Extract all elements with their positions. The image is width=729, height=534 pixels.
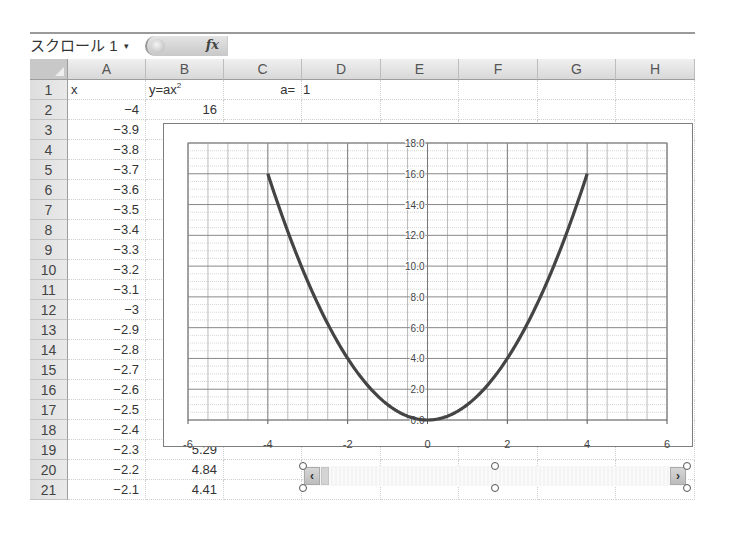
row-header[interactable]: 18 — [30, 420, 68, 440]
cell-a6[interactable]: −3.6 — [68, 180, 146, 200]
cell-c20[interactable] — [224, 460, 302, 480]
cell-a19[interactable]: −2.3 — [68, 440, 146, 460]
cell-e2[interactable] — [381, 100, 459, 120]
cell-a17[interactable]: −2.5 — [68, 400, 146, 420]
cell-b20[interactable]: 4.84 — [146, 460, 224, 480]
row-header[interactable]: 20 — [30, 460, 68, 480]
cell-a4[interactable]: −3.8 — [68, 140, 146, 160]
cell-a21[interactable]: −2.1 — [68, 480, 146, 500]
cell-a2[interactable]: −4 — [68, 100, 146, 120]
cell-b1[interactable]: y=ax2 — [146, 80, 224, 100]
cell-c1[interactable]: a= — [224, 80, 302, 100]
cell-a14[interactable]: −2.8 — [68, 340, 146, 360]
y-tick-label: 6.0 — [411, 323, 425, 334]
cell-d1[interactable]: 1 — [302, 80, 381, 100]
cell-value: 16 — [203, 102, 217, 117]
cell-value: −3.8 — [113, 142, 139, 157]
cell-value: −2.3 — [113, 442, 139, 457]
cell-a10[interactable]: −3.2 — [68, 260, 146, 280]
x-tick-label: -4 — [263, 438, 273, 448]
cell-a8[interactable]: −3.4 — [68, 220, 146, 240]
resize-handle-bottom-right[interactable] — [683, 484, 691, 492]
row-header[interactable]: 3 — [30, 120, 68, 140]
resize-handle-bottom-middle[interactable] — [491, 484, 499, 492]
cell-c2[interactable] — [224, 100, 302, 120]
superscript-exponent: 2 — [177, 81, 181, 90]
select-all-button[interactable] — [30, 59, 68, 80]
cell-a1[interactable]: x — [68, 80, 146, 100]
chevron-down-icon[interactable]: ▾ — [124, 41, 129, 51]
row-header[interactable]: 15 — [30, 360, 68, 380]
cell-a11[interactable]: −3.1 — [68, 280, 146, 300]
x-tick-label: 4 — [584, 438, 590, 448]
row-header[interactable]: 17 — [30, 400, 68, 420]
cell-a13[interactable]: −2.9 — [68, 320, 146, 340]
formula-bar-splitter[interactable]: fx — [145, 36, 227, 56]
cell-a16[interactable]: −2.6 — [68, 380, 146, 400]
cell-value: −3.5 — [113, 202, 139, 217]
cell-b21[interactable]: 4.41 — [146, 480, 224, 500]
scrollbar-thumb[interactable] — [321, 467, 329, 485]
column-header-b[interactable]: B — [146, 59, 224, 80]
resize-handle-top-right[interactable] — [683, 462, 691, 470]
cell-g2[interactable] — [538, 100, 616, 120]
scroll-right-button[interactable]: › — [670, 467, 686, 485]
cell-d2[interactable] — [302, 100, 381, 120]
cell-b2[interactable]: 16 — [146, 100, 224, 120]
cell-a7[interactable]: −3.5 — [68, 200, 146, 220]
row-header[interactable]: 6 — [30, 180, 68, 200]
cell-a9[interactable]: −3.3 — [68, 240, 146, 260]
cell-c21[interactable] — [224, 480, 302, 500]
chart-area[interactable]: 0.02.04.06.08.010.012.014.016.018.0-6-4-… — [163, 123, 693, 447]
column-header-c[interactable]: C — [224, 59, 302, 80]
column-header-e[interactable]: E — [381, 59, 459, 80]
splitter-knob-icon[interactable] — [151, 39, 165, 53]
cell-a5[interactable]: −3.7 — [68, 160, 146, 180]
row-header[interactable]: 9 — [30, 240, 68, 260]
cell-g1[interactable] — [538, 80, 616, 100]
formula-input[interactable] — [227, 36, 695, 56]
name-box[interactable]: スクロール 1▾ — [30, 36, 138, 56]
cell-a3[interactable]: −3.9 — [68, 120, 146, 140]
row-header[interactable]: 8 — [30, 220, 68, 240]
row-header[interactable]: 21 — [30, 480, 68, 500]
cell-value: −3.3 — [113, 242, 139, 257]
row-header[interactable]: 16 — [30, 380, 68, 400]
insert-function-icon[interactable]: fx — [206, 37, 219, 52]
cell-value: y=ax — [149, 82, 177, 97]
row-header[interactable]: 1 — [30, 80, 68, 100]
row-header[interactable]: 11 — [30, 280, 68, 300]
column-header-h[interactable]: H — [616, 59, 695, 80]
column-header-d[interactable]: D — [302, 59, 381, 80]
column-header-g[interactable]: G — [538, 59, 616, 80]
row-header[interactable]: 4 — [30, 140, 68, 160]
cell-value: −2.7 — [113, 362, 139, 377]
cell-a15[interactable]: −2.7 — [68, 360, 146, 380]
resize-handle-bottom-left[interactable] — [299, 484, 307, 492]
cell-value: −4 — [124, 102, 139, 117]
cell-value: −2.9 — [113, 322, 139, 337]
row-header[interactable]: 12 — [30, 300, 68, 320]
row-header[interactable]: 14 — [30, 340, 68, 360]
cell-value: −2.2 — [113, 462, 139, 477]
resize-handle-top-left[interactable] — [299, 462, 307, 470]
row-header[interactable]: 5 — [30, 160, 68, 180]
cell-h2[interactable] — [616, 100, 695, 120]
cell-a18[interactable]: −2.4 — [68, 420, 146, 440]
row-header[interactable]: 19 — [30, 440, 68, 460]
column-header-f[interactable]: F — [459, 59, 538, 80]
row-header[interactable]: 13 — [30, 320, 68, 340]
cell-a12[interactable]: −3 — [68, 300, 146, 320]
scroll-left-button[interactable]: ‹ — [304, 467, 320, 485]
cell-e1[interactable] — [381, 80, 459, 100]
chevron-left-icon: ‹ — [310, 469, 314, 483]
resize-handle-top-middle[interactable] — [491, 462, 499, 470]
cell-a20[interactable]: −2.2 — [68, 460, 146, 480]
cell-f1[interactable] — [459, 80, 538, 100]
row-header[interactable]: 7 — [30, 200, 68, 220]
row-header[interactable]: 10 — [30, 260, 68, 280]
column-header-a[interactable]: A — [68, 59, 146, 80]
cell-h1[interactable] — [616, 80, 695, 100]
cell-f2[interactable] — [459, 100, 538, 120]
row-header[interactable]: 2 — [30, 100, 68, 120]
